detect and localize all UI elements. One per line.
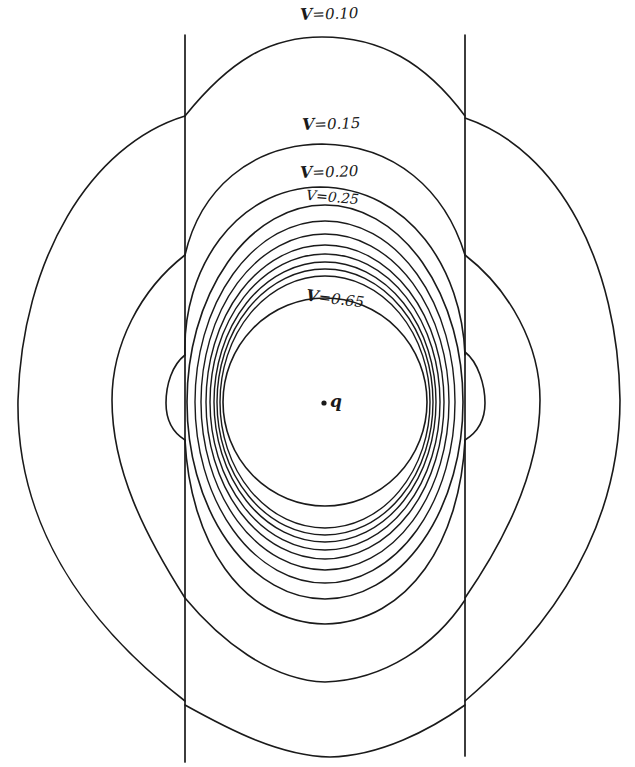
label-v015: V=0.15 [302, 115, 361, 133]
point-charge-dot [321, 400, 326, 405]
label-v010: V=0.10 [300, 5, 359, 23]
contour-v010 [18, 37, 620, 757]
charge-label: q [330, 391, 342, 411]
contour-v015 [112, 144, 540, 682]
label-v020: V=0.20 [300, 163, 359, 181]
